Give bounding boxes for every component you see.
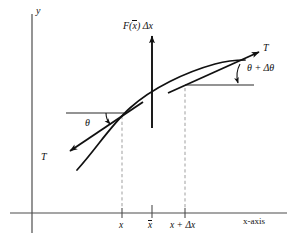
angle-label-theta: θ [85, 118, 90, 128]
y-axis-label: y [36, 6, 40, 16]
angle-arc-theta-plus-delta-theta [237, 64, 240, 83]
tension-label-left: T [41, 152, 47, 162]
load-label-suffix: ) Δx [137, 20, 153, 31]
load-force-label: F(x) Δx [123, 20, 153, 31]
tension-vector-right [168, 52, 259, 93]
load-label-x-bar: x [132, 20, 136, 31]
x-axis-label: x-axis [243, 217, 265, 226]
tick-label-x-bar-glyph: x [148, 220, 152, 231]
angle-label-theta-plus-delta-theta: θ + Δθ [247, 63, 274, 73]
tension-label-right: T [263, 43, 269, 53]
tick-label-x: x [119, 221, 123, 231]
string-curve [77, 60, 245, 170]
diagram-canvas [0, 0, 296, 241]
tick-label-x-bar: x [148, 220, 152, 231]
string-element-diagram: y x-axis F(x) Δx T θ T θ + Δθ x x x + Δx [0, 0, 296, 241]
angle-arc-theta [106, 113, 110, 124]
tick-label-x-plus-delta-x: x + Δx [170, 221, 195, 231]
tension-vector-left [70, 102, 143, 151]
